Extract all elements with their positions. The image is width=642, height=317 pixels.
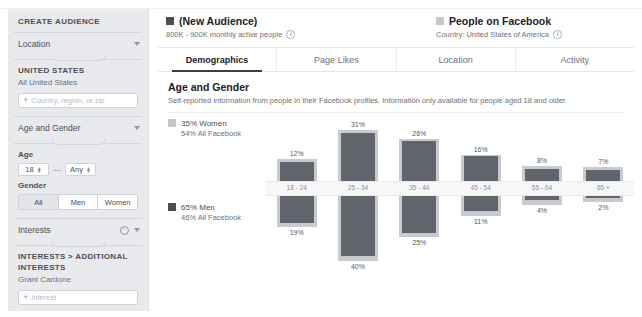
bar-value-label-women: 12%: [277, 150, 317, 157]
age-min-select[interactable]: 18 ▲▼: [18, 163, 49, 176]
interests-selected-value: Grant Cardone: [18, 275, 138, 284]
audience-bar-women[interactable]: [402, 141, 436, 181]
tab-activity[interactable]: Activity: [516, 48, 634, 71]
sidebar-section-location[interactable]: Location: [8, 33, 148, 55]
sidebar-section-age-gender[interactable]: Age and Gender: [8, 117, 148, 139]
axis-label-1: 18 - 24: [266, 181, 327, 194]
chart-group-men-6: 2%: [573, 194, 634, 285]
gender-label: Gender: [18, 181, 138, 190]
interests-input[interactable]: + Interest: [18, 290, 138, 305]
legend-men-label: 65% Men: [181, 203, 215, 212]
info-icon[interactable]: i: [286, 30, 295, 39]
bar-value-label-women: 26%: [399, 130, 439, 137]
bar-value-label-men: 25%: [399, 239, 439, 246]
legend-women: 35% Women 54% All Facebook: [168, 119, 278, 138]
sidebar-section-interests[interactable]: Interests: [8, 219, 148, 241]
bar-value-label-women: 16%: [461, 146, 501, 153]
legend-women-label: 35% Women: [181, 119, 227, 128]
age-range-row: 18 ▲▼ — Any ▲▼: [18, 163, 138, 176]
chart-group-1: 12%19%: [266, 113, 327, 285]
chart-group-women-4: 16%: [450, 113, 511, 181]
plus-icon: +: [23, 293, 28, 302]
audience-bar-women[interactable]: [464, 156, 498, 181]
gender-option-men[interactable]: Men: [59, 195, 99, 209]
axis-label-5: 55 - 64: [511, 181, 572, 194]
location-input[interactable]: + Country, region, or zip: [18, 93, 138, 108]
age-gender-chart: 35% Women 54% All Facebook 65% Men 46% A…: [158, 113, 634, 297]
interests-panel-notch: [14, 241, 142, 246]
audience-bar-men[interactable]: [280, 194, 314, 223]
benchmark-color-swatch-icon: [436, 17, 444, 25]
chart-group-men-5: 4%: [511, 194, 572, 285]
interests-input-placeholder: Interest: [31, 293, 56, 302]
gender-segmented-control: All Men Women: [18, 194, 138, 210]
chevron-down-icon[interactable]: [134, 126, 140, 130]
chart-group-women-3: 26%: [389, 113, 450, 181]
audience-bar-women[interactable]: [525, 169, 559, 181]
age-max-value: Any: [70, 165, 83, 174]
chart-group-women-6: 7%: [573, 113, 634, 181]
axis-label-6: 65 +: [573, 181, 634, 194]
sidebar-title: CREATE AUDIENCE: [8, 9, 148, 32]
benchmark-title: People on Facebook: [449, 15, 551, 27]
bar-value-label-women: 7%: [583, 158, 623, 165]
location-input-placeholder: Country, region, or zip: [31, 96, 104, 105]
interests-accordion-icons: [120, 226, 140, 235]
create-audience-sidebar: CREATE AUDIENCE Location UNITED STATES A…: [8, 9, 149, 311]
bar-value-label-men: 11%: [461, 218, 501, 225]
legend-women-benchmark: 54% All Facebook: [181, 129, 278, 138]
legend-men: 65% Men 46% All Facebook: [168, 203, 278, 222]
gender-option-all[interactable]: All: [19, 195, 59, 209]
audience-bar-women[interactable]: [280, 162, 314, 181]
interests-panel: INTERESTS > ADDITIONAL INTERESTS Grant C…: [8, 246, 148, 313]
audience-summary-new-audience: (New Audience) 800K - 900K monthly activ…: [158, 15, 364, 39]
axis-label-3: 35 - 44: [389, 181, 450, 194]
chart-axis-labels: 18 - 2425 - 3435 - 4445 - 5455 - 6465 +: [266, 181, 634, 194]
age-max-select[interactable]: Any ▲▼: [65, 163, 96, 176]
main-tabs: Demographics Page Likes Location Activit…: [158, 47, 634, 72]
stepper-icon: ▲▼: [37, 167, 42, 173]
benchmark-subtitle-row: Country: United States of America i: [436, 30, 634, 39]
age-label: Age: [18, 150, 138, 159]
location-panel-notch: [14, 55, 142, 60]
tab-page-likes[interactable]: Page Likes: [277, 48, 396, 71]
bar-value-label-men: 40%: [338, 263, 378, 270]
chevron-down-icon[interactable]: [134, 228, 140, 232]
audience-bar-men[interactable]: [464, 194, 498, 211]
age-gender-panel: Age 18 ▲▼ — Any ▲▼ Gender All Men Women: [8, 144, 148, 218]
age-gender-accordion-icons: [134, 126, 140, 130]
chevron-down-icon[interactable]: [134, 42, 140, 46]
main-panel: (New Audience) 800K - 900K monthly activ…: [158, 9, 634, 311]
tab-demographics[interactable]: Demographics: [158, 48, 277, 71]
chart-group-3: 26%25%: [389, 113, 450, 285]
axis-label-4: 45 - 54: [450, 181, 511, 194]
chart-group-women-1: 12%: [266, 113, 327, 181]
age-gender-panel-notch: [14, 139, 142, 144]
sidebar-section-location-label: Location: [18, 39, 50, 49]
chart-group-men-4: 11%: [450, 194, 511, 285]
chart-group-men-3: 25%: [389, 194, 450, 285]
audience-bar-women[interactable]: [341, 133, 375, 181]
sidebar-section-interests-label: Interests: [18, 225, 51, 235]
audience-title-row: (New Audience): [166, 15, 364, 27]
section-subtitle: Self-reported information from people in…: [168, 96, 624, 105]
gender-option-women[interactable]: Women: [98, 195, 137, 209]
tab-location[interactable]: Location: [397, 48, 516, 71]
chart-group-women-2: 31%: [327, 113, 388, 181]
info-icon[interactable]: i: [553, 30, 562, 39]
audience-title: (New Audience): [179, 15, 257, 27]
sidebar-section-age-gender-label: Age and Gender: [18, 123, 80, 133]
bar-value-label-men: 4%: [522, 207, 562, 214]
bar-value-label-women: 31%: [338, 121, 378, 128]
chart-group-men-1: 19%: [266, 194, 327, 285]
legend-women-swatch-icon: [168, 119, 176, 127]
gear-icon[interactable]: [120, 226, 129, 235]
bar-value-label-men: 2%: [583, 204, 623, 211]
audience-summary-benchmark: People on Facebook Country: United State…: [364, 15, 634, 39]
axis-label-2: 25 - 34: [327, 181, 388, 194]
audience-bar-women[interactable]: [586, 170, 620, 181]
section-title: Age and Gender: [168, 81, 624, 93]
audience-bar-men[interactable]: [402, 194, 436, 233]
chart-group-women-5: 8%: [511, 113, 572, 181]
audience-bar-men[interactable]: [341, 194, 375, 256]
